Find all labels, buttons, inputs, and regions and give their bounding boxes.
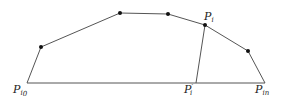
projection-line — [196, 25, 205, 83]
polyline-curve — [27, 13, 265, 83]
polygon-projection-diagram: Pi0 P′i Pin Pi — [0, 0, 287, 106]
vertex-dot — [166, 12, 170, 16]
vertex-dot — [203, 23, 207, 27]
label-p-i: Pi — [203, 10, 214, 24]
vertex-dot — [118, 11, 122, 15]
label-p-i-prime: P′i — [183, 83, 193, 97]
label-p-i0: Pi0 — [12, 83, 28, 98]
label-p-in: Pin — [254, 83, 270, 97]
vertex-dot — [39, 45, 43, 49]
vertex-dot — [246, 49, 250, 53]
vertex-dots — [39, 11, 250, 53]
